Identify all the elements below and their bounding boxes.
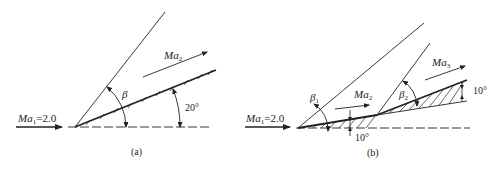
oblique-shock-diagram: Ma1=2.0 β 20° Ma2 (a) Ma <box>0 0 498 171</box>
middle-flow-arrow <box>335 105 369 109</box>
downstream-mach-label: Ma2 <box>163 49 183 63</box>
wedge-1-angle-label: 10° <box>355 132 369 143</box>
middle-mach-label: Ma2 <box>353 88 373 102</box>
incoming-mach-label: Ma1=2.0 <box>245 112 285 126</box>
wedge-2-angle-label: 10° <box>473 85 487 96</box>
wedge-angle-label: 20° <box>185 102 199 113</box>
shock-wave-1-line <box>298 23 424 128</box>
wedge-surface <box>75 70 216 127</box>
wedge-2-lower-edge <box>377 101 467 115</box>
beta2-label: β2 <box>398 88 408 102</box>
incoming-mach-label: Ma1=2.0 <box>17 112 57 126</box>
panel-b: Ma1=2.0 β1 <box>245 23 487 159</box>
downstream-flow-arrow <box>425 66 465 80</box>
panel-a: Ma1=2.0 β 20° Ma2 (a) <box>16 12 216 158</box>
caption-a: (a) <box>131 146 142 158</box>
downstream-mach-label: Ma3 <box>431 56 451 70</box>
caption-b: (b) <box>367 147 379 159</box>
wedge-angle-arc <box>173 89 180 127</box>
beta1-angle-arc <box>314 104 328 131</box>
wedge-surface-1 <box>298 115 377 128</box>
beta1-label: β1 <box>309 91 319 105</box>
beta-label: β <box>121 88 128 100</box>
